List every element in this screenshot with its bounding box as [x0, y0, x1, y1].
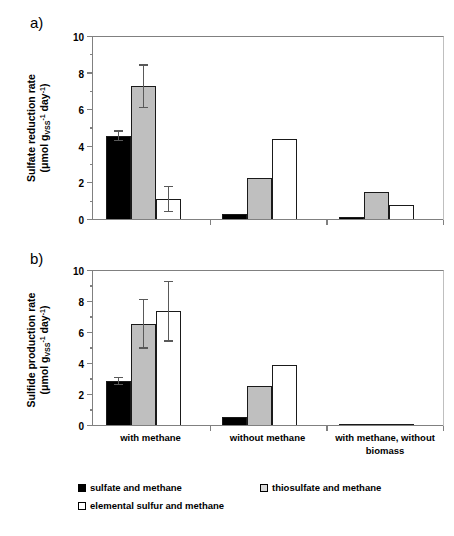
legend-item-thiosulfate-and-methane: thiosulfate and methane: [260, 482, 381, 493]
error-bar-0-1: [143, 64, 144, 108]
x-tick-1: [326, 220, 327, 225]
y-axis-title-a: Sulfate reduction rate (μmol gVSS-1 day-…: [25, 43, 53, 213]
plot-area-a: 0246810: [92, 36, 444, 220]
legend-item-elemental-sulfur-and-methane: elemental sulfur and methane: [78, 500, 224, 511]
y-axis-title-b-line2: (μmol gVSS-1 day-1): [38, 265, 53, 435]
y-tick-label-2: 2: [78, 390, 84, 401]
x-tick-2: [443, 426, 444, 431]
bar-1-1: [247, 178, 272, 220]
plot-area-b: 0246810: [92, 270, 444, 426]
x-tick-2: [443, 220, 444, 225]
y-tick-label-0: 0: [78, 421, 84, 432]
x-category-label-0: with methane: [92, 432, 209, 445]
bar-0-0: [106, 381, 131, 426]
bar-group-1: [210, 271, 327, 426]
bar-1-2: [272, 139, 297, 220]
y-tick-label-2: 2: [78, 178, 84, 189]
y-tick-label-6: 6: [78, 105, 84, 116]
bar-group-0: [93, 271, 210, 426]
bar-group-0: [93, 37, 210, 220]
bar-group-1: [210, 37, 327, 220]
error-bar-0-0: [118, 130, 119, 141]
panel-label-a: a): [30, 14, 43, 31]
x-axis-line-a: [93, 219, 443, 220]
y-axis-title-a-line2: (μmol gVSS-1 day-1): [38, 43, 53, 213]
legend-swatch-gray-icon: [260, 484, 268, 492]
y-tick-label-4: 4: [78, 141, 84, 152]
legend-label-2: elemental sulfur and methane: [90, 500, 224, 511]
figure: a) Sulfate reduction rate (μmol gVSS-1 d…: [0, 0, 454, 536]
bar-group-2: [326, 37, 443, 220]
chart-panel-a: a) Sulfate reduction rate (μmol gVSS-1 d…: [0, 14, 454, 242]
y-axis-title-b: Sulfide production rate (μmol gVSS-1 day…: [25, 265, 53, 435]
y-tick-label-10: 10: [73, 266, 84, 277]
legend-item-sulfate-and-methane: sulfate and methane: [78, 482, 182, 493]
bar-2-1: [364, 192, 389, 220]
y-tick-label-8: 8: [78, 297, 84, 308]
bar-1-2: [272, 365, 297, 426]
y-tick-label-10: 10: [73, 32, 84, 43]
y-axis-title-a-line1: Sulfate reduction rate: [25, 43, 38, 213]
y-tick-label-8: 8: [78, 68, 84, 79]
error-bar-0-1: [143, 299, 144, 349]
y-tick-label-6: 6: [78, 328, 84, 339]
legend: sulfate and methane thiosulfate and meth…: [0, 482, 454, 526]
legend-swatch-black-icon: [78, 484, 86, 492]
bar-group-2: [326, 271, 443, 426]
error-bar-0-2: [168, 186, 169, 212]
x-category-label-2: with methane, without biomass: [326, 432, 444, 458]
x-tick-0: [210, 220, 211, 225]
x-category-label-1: without methane: [209, 432, 326, 445]
y-tick-label-0: 0: [78, 215, 84, 226]
y-tick-label-4: 4: [78, 359, 84, 370]
error-bar-0-2: [168, 281, 169, 341]
error-bar-0-0: [118, 377, 119, 385]
bar-0-0: [106, 136, 131, 220]
x-tick-1: [326, 426, 327, 431]
bar-1-1: [247, 386, 272, 426]
legend-swatch-white-icon: [78, 502, 86, 510]
legend-label-1: thiosulfate and methane: [272, 482, 381, 493]
x-tick-0: [210, 426, 211, 431]
chart-panel-b: b) Sulfide production rate (μmol gVSS-1 …: [0, 250, 454, 450]
legend-label-0: sulfate and methane: [90, 482, 182, 493]
x-axis-category-labels: with methane without methane with methan…: [92, 432, 444, 466]
x-axis-line-b: [93, 425, 443, 426]
y-axis-title-b-line1: Sulfide production rate: [25, 265, 38, 435]
